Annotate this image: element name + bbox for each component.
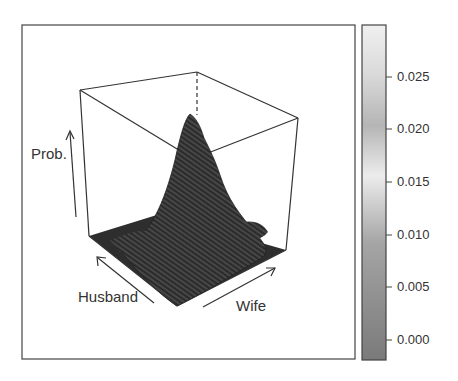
colorbar-tick-label: 0.005	[397, 279, 430, 294]
colorbar-tick-label: 0.015	[397, 174, 430, 189]
prob-arrow-icon	[70, 132, 76, 217]
y-axis-label: Husband	[78, 288, 138, 305]
chart-canvas	[0, 0, 458, 381]
x-axis-label: Wife	[236, 297, 266, 314]
colorbar-tick-label: 0.025	[397, 69, 430, 84]
surface-ridge-right	[235, 221, 268, 240]
colorbar-tick-label: 0.000	[397, 332, 430, 347]
z-axis-label: Prob.	[31, 145, 67, 162]
colorbar	[362, 25, 386, 360]
colorbar-ticks	[386, 77, 392, 340]
colorbar-tick-label: 0.010	[397, 227, 430, 242]
colorbar-tick-label: 0.020	[397, 121, 430, 136]
